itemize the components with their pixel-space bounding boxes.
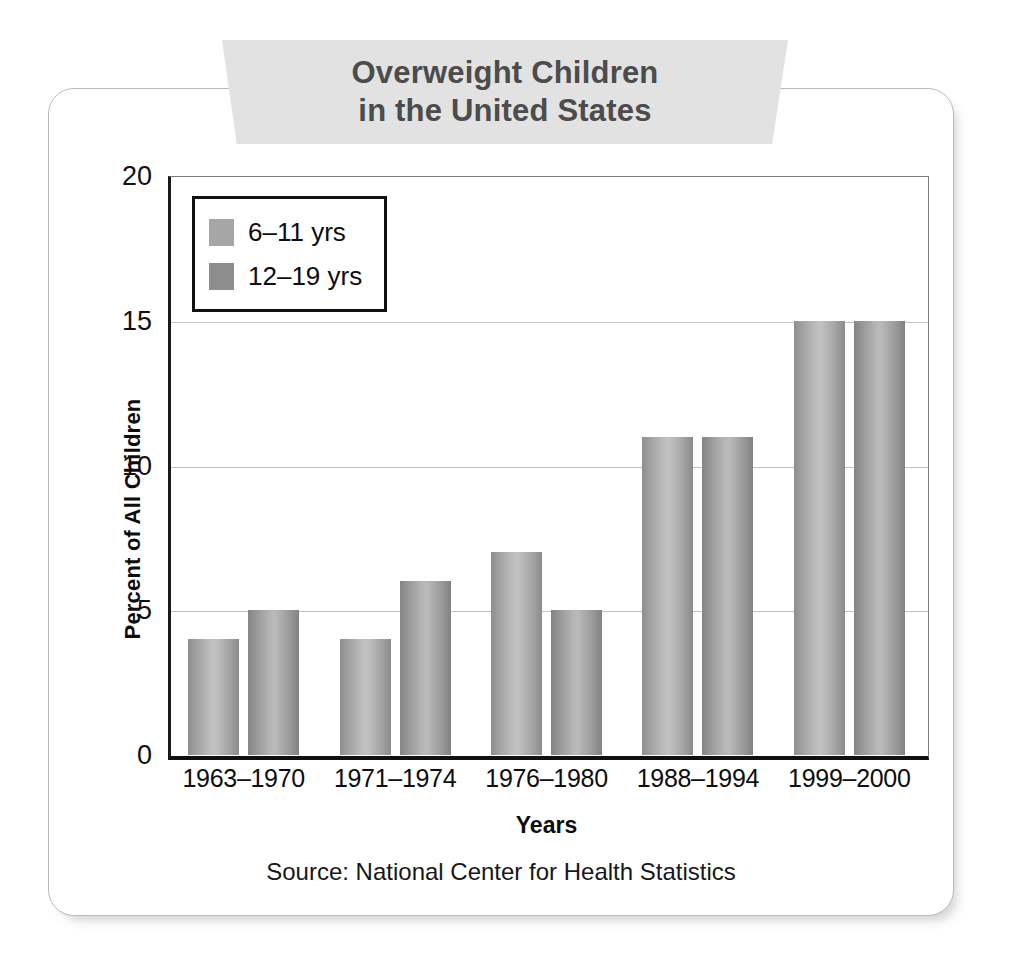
x-tick-4: 1999–2000 <box>774 764 925 793</box>
legend-swatch-icon-6-11 <box>209 219 234 246</box>
legend-swatch-icon-12-19 <box>209 263 234 290</box>
chart-title-line-2: in the United States <box>358 92 651 130</box>
x-tick-2: 1976–1980 <box>471 764 622 793</box>
source-note: Source: National Center for Health Stati… <box>48 858 954 886</box>
legend-label-6-11: 6–11 yrs <box>248 217 346 248</box>
gridline-15 <box>171 322 928 323</box>
y-axis-title: Percent of All Children <box>120 329 146 709</box>
title-banner: Overweight Children in the United States <box>222 40 788 144</box>
chart-title-line-1: Overweight Children <box>352 54 659 92</box>
y-tick-0: 0 <box>92 740 152 771</box>
legend: 6–11 yrs 12–19 yrs <box>192 196 387 312</box>
legend-item-12-19: 12–19 yrs <box>209 254 362 298</box>
chart-title: Overweight Children in the United States <box>222 40 788 144</box>
legend-item-6-11: 6–11 yrs <box>209 210 362 254</box>
x-tick-0: 1963–1970 <box>168 764 319 793</box>
x-tick-3: 1988–1994 <box>622 764 773 793</box>
x-axis-title: Years <box>168 812 925 839</box>
y-axis-ticks: 20 15 10 5 0 Percent of All Children <box>90 176 152 755</box>
gridline-5 <box>171 611 928 612</box>
legend-label-12-19: 12–19 yrs <box>248 261 362 292</box>
y-tick-20: 20 <box>92 161 152 192</box>
x-axis-ticks: 1963–1970 1971–1974 1976–1980 1988–1994 … <box>168 764 925 793</box>
gridline-10 <box>171 467 928 468</box>
x-tick-1: 1971–1974 <box>319 764 470 793</box>
